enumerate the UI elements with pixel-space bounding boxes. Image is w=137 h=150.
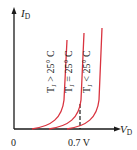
- x-axis-label: VD: [120, 123, 133, 137]
- origin-label: 0: [11, 137, 16, 148]
- label-tj-less: TJ < 25° C: [81, 50, 94, 93]
- label-tj-greater: TJ > 25° C: [45, 50, 58, 93]
- y-axis-label: ID: [20, 7, 31, 21]
- diode-temperature-diagram: TJ > 25° C TJ = 25° C TJ < 25° C ID VD 0…: [0, 0, 137, 150]
- y-axis-arrow-icon: [12, 7, 17, 14]
- tick-07v-label: 0.7 V: [68, 137, 91, 148]
